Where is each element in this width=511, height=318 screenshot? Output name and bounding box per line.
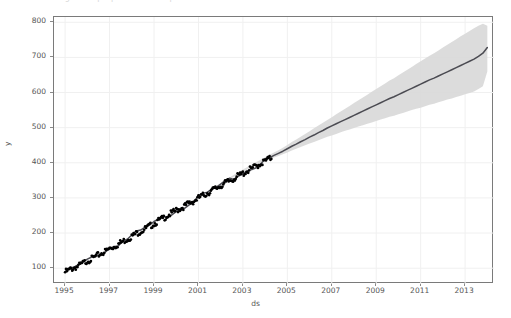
x-tick-label: 2013 bbox=[444, 287, 484, 295]
forecast-figure: Figure — prophet forecast plot y ds 1002… bbox=[0, 0, 511, 318]
uncertainty-band bbox=[65, 24, 487, 271]
y-tick-label: 500 bbox=[20, 123, 46, 131]
y-tick-label: 100 bbox=[20, 263, 46, 271]
y-tick-label: 800 bbox=[20, 17, 46, 25]
x-tick-label: 1995 bbox=[44, 287, 84, 295]
x-tick-label: 2011 bbox=[400, 287, 440, 295]
x-tick-label: 2009 bbox=[355, 287, 395, 295]
y-axis-label: y bbox=[3, 142, 12, 146]
x-axis-label: ds bbox=[0, 299, 511, 308]
plot-area bbox=[53, 16, 493, 283]
x-tick-label: 1997 bbox=[89, 287, 129, 295]
x-tick-label: 1999 bbox=[133, 287, 173, 295]
x-tick-label: 2001 bbox=[177, 287, 217, 295]
x-tick-label: 2007 bbox=[311, 287, 351, 295]
observed-data-points bbox=[64, 155, 273, 274]
y-tick-label: 400 bbox=[20, 158, 46, 166]
y-tick-label: 600 bbox=[20, 88, 46, 96]
y-tick-label: 300 bbox=[20, 193, 46, 201]
clipped-figure-title: Figure — prophet forecast plot bbox=[58, 0, 488, 2]
x-tick-label: 2005 bbox=[266, 287, 306, 295]
y-tick-label: 700 bbox=[20, 52, 46, 60]
x-tick-label: 2003 bbox=[222, 287, 262, 295]
y-tick-label: 200 bbox=[20, 228, 46, 236]
plot-canvas bbox=[54, 17, 494, 284]
